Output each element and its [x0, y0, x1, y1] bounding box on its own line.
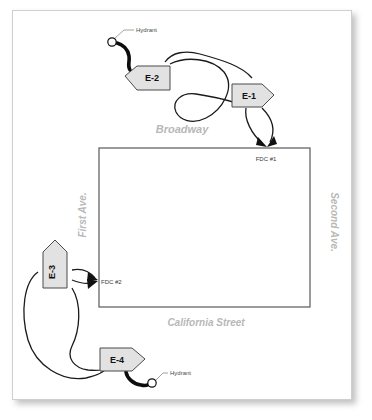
hydrant-icon-north[interactable]: [108, 38, 116, 46]
apparatus-label-e-4: E-4: [110, 355, 124, 365]
apparatus-e-3[interactable]: [43, 240, 67, 288]
supply-line-e2-to-e1-upper: [165, 52, 252, 78]
supply-line-e2-to-e1-lower: [170, 59, 236, 121]
apparatus-label-e-1: E-1: [242, 91, 256, 101]
hydrant-label-south: Hydrant: [170, 370, 191, 376]
building-footprint: [99, 148, 310, 307]
hydrant-hose-north: [117, 43, 130, 70]
street-label-california-street: California Street: [167, 317, 245, 328]
supply-line-e1-to-fdc1-a: [246, 108, 262, 143]
fdc-label-1: FDC #1: [256, 156, 277, 162]
street-label-first-ave: First Ave.: [77, 192, 88, 237]
hydrant-label-north: Hydrant: [136, 27, 157, 33]
street-label-broadway: Broadway: [156, 123, 209, 135]
apparatus-label-e-2: E-2: [145, 73, 159, 83]
hydrant-leader-south: [156, 373, 168, 380]
preplan-diagram: Broadway California Street First Ave. Se…: [0, 0, 372, 420]
apparatus-label-e-3: E-3: [47, 265, 57, 279]
street-label-second-ave: Second Ave.: [329, 192, 340, 252]
fdc-label-2: FDC #2: [101, 279, 122, 285]
hydrant-hose-south: [126, 372, 149, 385]
fdc1-arrowhead-a: [256, 137, 267, 147]
fdc2-arrowhead-b: [87, 279, 98, 289]
hydrant-leader-north: [115, 30, 134, 38]
supply-line-e1-to-fdc1-b: [262, 108, 273, 142]
hydrant-icon-south[interactable]: [148, 379, 156, 387]
